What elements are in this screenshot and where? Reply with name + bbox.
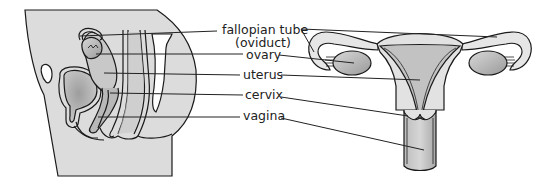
- uterine-cavity: [380, 45, 460, 119]
- ovary-right: [469, 51, 507, 75]
- reproductive-system-diagram: fallopian tube (oviduct) ovary uterus ce…: [0, 0, 557, 186]
- label-cervix: cervix: [245, 87, 283, 102]
- front-view-panel: [309, 32, 531, 171]
- vagina-front: [404, 112, 436, 171]
- label-vagina: vagina: [243, 108, 285, 123]
- labels: fallopian tube (oviduct) ovary uterus ce…: [222, 22, 308, 123]
- label-ovary: ovary: [246, 47, 282, 62]
- ovary-side: [82, 37, 102, 58]
- label-uterus: uterus: [243, 67, 283, 82]
